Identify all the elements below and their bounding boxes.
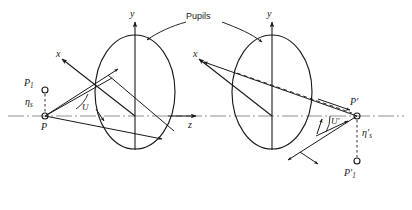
pupils-label: Pupils	[186, 12, 211, 21]
angle-u-label: U	[82, 103, 89, 112]
x-axis-label-right: x	[193, 49, 197, 59]
left-ray-bundle	[45, 69, 174, 139]
object-aux-point-subscript: 1	[30, 82, 34, 90]
optics-ray-diagram-figure: Pupils y y x x z P P1 ηs P′ P′1 η′s U U′	[0, 0, 412, 210]
x-axis-label-left: x	[56, 49, 60, 59]
right-ray-bundle	[204, 62, 357, 164]
angle-u-prime-label: U′	[331, 117, 339, 126]
y-axis-label-right: y	[267, 9, 271, 19]
object-aux-point-label: P1	[24, 78, 34, 90]
pupils-leader-left	[147, 22, 186, 40]
image-aux-point-marker	[354, 120, 360, 164]
image-height-label: η′s	[362, 128, 372, 140]
image-aux-point-label: P′1	[344, 168, 356, 180]
z-axis-label: z	[188, 120, 192, 130]
image-height-subscript: s	[369, 132, 372, 140]
y-axis-label-left: y	[130, 9, 134, 19]
object-height-subscript: s	[30, 101, 33, 109]
image-aux-point-subscript: 1	[352, 172, 356, 180]
image-point-label: P′	[350, 97, 358, 107]
object-aux-point-marker	[42, 87, 48, 112]
object-point-label: P	[41, 122, 47, 132]
object-height-label: ηs	[25, 97, 33, 109]
